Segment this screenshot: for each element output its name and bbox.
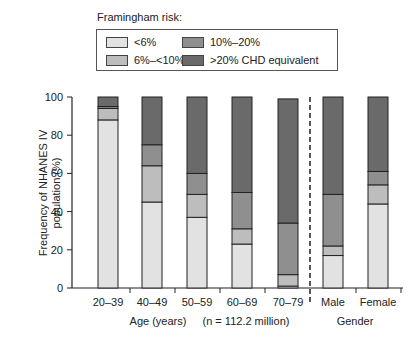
sample-size-note: (n = 112.2 million) <box>203 315 290 327</box>
y-tick-label: 100 <box>45 91 63 103</box>
x-tick-label: 60–69 <box>227 296 258 308</box>
bar-segment <box>232 97 252 193</box>
bar-segment <box>142 145 162 166</box>
y-tick-label: 80 <box>51 129 63 141</box>
bar-segment <box>187 217 207 288</box>
bar-segment <box>323 194 343 246</box>
x-tick-label: 20–39 <box>93 296 124 308</box>
bar-segment <box>278 275 298 286</box>
bar-segment <box>368 185 388 204</box>
y-tick-label: 20 <box>51 244 63 256</box>
x-tick-label: Female <box>360 296 397 308</box>
bar-segment <box>323 256 343 288</box>
bar-segment <box>142 202 162 288</box>
x-tick-label: 50–59 <box>182 296 213 308</box>
bar-segment <box>368 171 388 184</box>
bar-segment <box>187 173 207 194</box>
bar-segment <box>368 97 388 171</box>
bar-segment <box>368 204 388 288</box>
x-axis-label: Age (years) <box>130 315 187 327</box>
bar-segment <box>323 246 343 256</box>
stacked-bar-chart: 02040608010020–3940–4950–5960–6970–79Mal… <box>0 0 418 348</box>
bar-segment <box>232 229 252 244</box>
bar-segment <box>278 99 298 223</box>
bar-segment <box>232 244 252 288</box>
bar-segment <box>232 193 252 229</box>
bar-segment <box>278 223 298 275</box>
y-tick-label: 60 <box>51 167 63 179</box>
bar-segment <box>98 108 118 119</box>
x-tick-label: 40–49 <box>137 296 168 308</box>
gender-group-label: Gender <box>337 315 374 327</box>
x-tick-label: Male <box>321 296 345 308</box>
bar-segment <box>142 166 162 202</box>
x-tick-label: 70–79 <box>273 296 304 308</box>
bar-segment <box>98 120 118 288</box>
bar-segment <box>323 97 343 194</box>
bar-segment <box>98 97 118 107</box>
bar-segment <box>187 97 207 173</box>
y-tick-label: 40 <box>51 206 63 218</box>
y-tick-label: 0 <box>57 282 63 294</box>
bar-segment <box>142 97 162 145</box>
bar-segment <box>187 194 207 217</box>
